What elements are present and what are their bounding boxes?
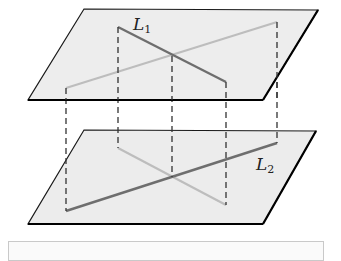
caption-box [8,241,324,261]
upper-plane [28,9,318,100]
